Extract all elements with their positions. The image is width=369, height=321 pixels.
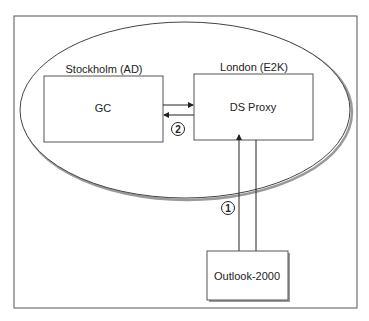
outlook-label: Outlook-2000: [214, 270, 280, 282]
step-1-number: 1: [225, 203, 231, 214]
gc-label: GC: [95, 102, 112, 114]
london-site-label: London (E2K): [220, 61, 288, 73]
stockholm-site-label: Stockholm (AD): [65, 63, 142, 75]
diagram-canvas: Stockholm (AD) London (E2K) GC DS Proxy …: [0, 0, 369, 321]
ds-proxy-label: DS Proxy: [230, 101, 277, 113]
step-2-number: 2: [175, 124, 181, 135]
